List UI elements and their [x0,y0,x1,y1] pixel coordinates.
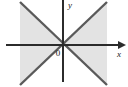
y-axis-label: y [67,0,72,10]
x-axis-label: x [116,49,121,59]
origin-label: 0 [56,48,61,58]
figure-canvas: y x 0 [0,0,128,87]
shaded-region-left-wedge [20,2,63,85]
shaded-region-right-wedge [63,2,107,85]
coordinate-figure: y x 0 [0,0,128,87]
x-axis-arrowhead [118,41,126,49]
